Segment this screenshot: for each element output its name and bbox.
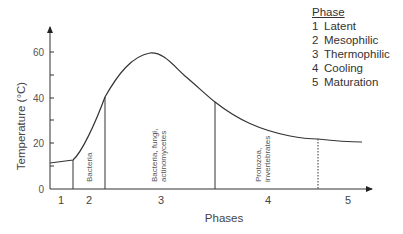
svg-text:actinomycetes: actinomycetes [159, 131, 168, 182]
legend-item: 1Latent [312, 19, 390, 33]
svg-text:Protozoa,: Protozoa, [254, 148, 263, 182]
svg-text:4: 4 [265, 194, 271, 206]
svg-text:40: 40 [33, 93, 45, 104]
legend-item: 2Mesophilic [312, 33, 390, 47]
svg-text:5: 5 [345, 194, 351, 206]
svg-text:Bacteria, fungi,: Bacteria, fungi, [150, 129, 159, 182]
svg-text:2: 2 [86, 194, 92, 206]
legend-item: 3Thermophilic [312, 47, 390, 61]
svg-text:0: 0 [38, 184, 44, 195]
y-axis-label: Temperature (°C) [15, 82, 27, 170]
svg-text:60: 60 [33, 47, 45, 58]
legend-title: Phase [312, 5, 390, 19]
svg-text:Bacteria: Bacteria [85, 152, 94, 182]
phase-annotations: Bacteria Bacteria, fungi, actinomycetes … [85, 129, 272, 182]
y-tick-labels: 0 20 40 60 [33, 47, 45, 195]
legend-item: 4Cooling [312, 61, 390, 75]
x-axis-label: Phases [205, 212, 244, 224]
svg-text:20: 20 [33, 138, 45, 149]
y-ticks [50, 52, 54, 166]
x-tick-labels: 1 2 3 4 5 [58, 194, 351, 206]
svg-text:invertebrates: invertebrates [263, 136, 272, 182]
svg-text:3: 3 [158, 194, 164, 206]
legend: Phase 1Latent 2Mesophilic 3Thermophilic … [312, 5, 390, 89]
legend-item: 5Maturation [312, 75, 390, 89]
svg-text:1: 1 [58, 194, 64, 206]
